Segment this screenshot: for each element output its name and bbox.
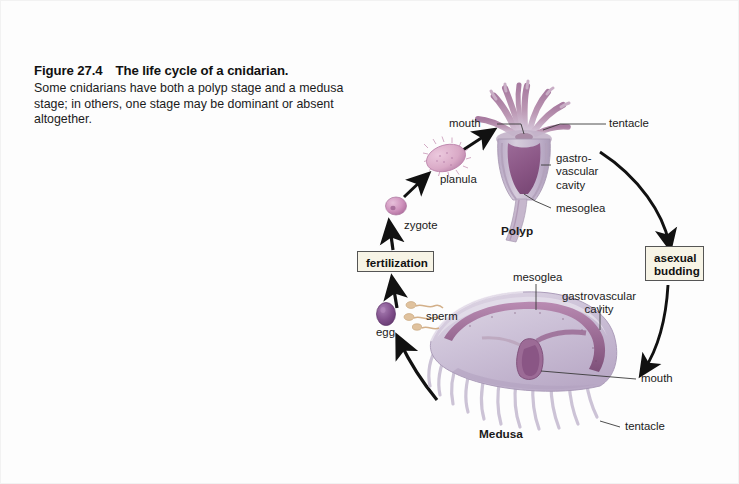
label-stage-polyp: Polyp	[501, 225, 533, 238]
medusa-gvc-line2: cavity	[584, 303, 613, 315]
gvc-line1: gastro-	[556, 152, 591, 164]
medusa-gvc-line1: gastrovascular	[562, 290, 636, 302]
gvc-line2: vascular	[556, 165, 598, 177]
label-medusa-mesoglea: mesoglea	[513, 271, 562, 284]
asexual-budding-box[interactable]: asexual budding	[645, 246, 704, 281]
arrow-fertilization-to-zygote	[390, 228, 393, 250]
gvc-line3: cavity	[556, 179, 585, 191]
zygote-illustration	[386, 197, 407, 215]
arrow-budding-to-medusa	[644, 285, 668, 370]
label-sperm: sperm	[426, 310, 458, 323]
label-medusa-tentacle: tentacle	[625, 420, 665, 433]
life-cycle-illustration	[0, 0, 739, 484]
planula-illustration	[423, 137, 471, 178]
label-polyp-gastrovascular-cavity: gastro- vascular cavity	[556, 152, 618, 192]
label-zygote: zygote	[404, 219, 438, 232]
label-polyp-mouth: mouth	[449, 117, 481, 130]
label-egg: egg	[376, 326, 395, 339]
fertilization-label: fertilization	[366, 256, 428, 269]
label-polyp-tentacle: tentacle	[609, 117, 649, 130]
asexual-budding-line1: asexual	[654, 251, 697, 264]
label-medusa-gastrovascular-cavity: gastrovascular cavity	[557, 290, 641, 317]
label-planula: planula	[440, 173, 477, 186]
leader-medusa-tentacle	[600, 421, 620, 427]
label-polyp-mesoglea: mesoglea	[556, 202, 605, 215]
asexual-budding-line2: budding	[654, 264, 700, 277]
arrow-gametes-to-fertilization	[393, 284, 397, 308]
label-medusa-mouth: mouth	[641, 372, 673, 385]
egg-illustration	[377, 303, 396, 326]
label-stage-medusa: Medusa	[479, 428, 523, 441]
figure-page: Figure 27.4The life cycle of a cnidarian…	[0, 0, 739, 484]
arrow-planula-to-polyp	[460, 133, 489, 152]
fertilization-box[interactable]: fertilization	[357, 251, 434, 272]
arrow-zygote-to-planula	[404, 178, 424, 197]
